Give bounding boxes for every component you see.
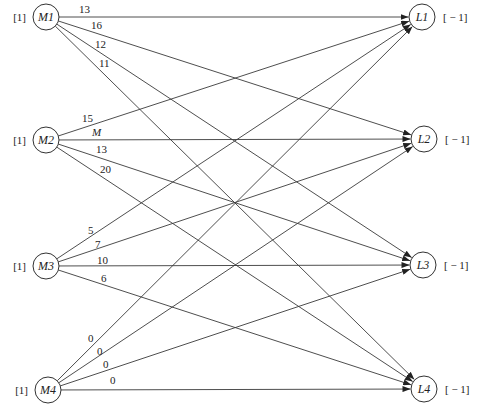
cost-label-m1-l1: 13 — [79, 3, 91, 15]
demand-label: [ − 1] — [445, 133, 470, 145]
edge-m4-l2 — [59, 146, 413, 382]
cost-label-m3-l2: 7 — [95, 238, 101, 250]
cost-label-m4-l4: 0 — [110, 374, 116, 386]
supply-label: [1] — [13, 134, 26, 146]
sink-node-l1: L1[ − 1] — [409, 4, 468, 30]
sink-node-l3: L3[ − 1] — [410, 252, 469, 278]
source-node-m1: M1[1] — [13, 4, 59, 30]
node-label: L3 — [416, 258, 430, 272]
demand-label: [ − 1] — [444, 259, 469, 271]
node-label: M4 — [39, 383, 56, 397]
node-label: M2 — [37, 133, 54, 147]
cost-labels-layer: 1316121115M1320571060000 — [79, 3, 116, 386]
cost-label-m2-l4: 20 — [100, 163, 112, 175]
node-label: L1 — [415, 10, 429, 24]
cost-label-m4-l1: 0 — [88, 332, 94, 344]
cost-label-m3-l4: 6 — [101, 272, 107, 284]
node-label: M1 — [37, 10, 54, 24]
edge-m2-l2 — [59, 139, 411, 140]
source-node-m4: M4[1] — [15, 377, 61, 403]
supply-label: [1] — [13, 11, 26, 23]
node-label: L4 — [417, 382, 431, 396]
demand-label: [ − 1] — [445, 383, 470, 395]
node-label: M3 — [37, 259, 54, 273]
nodes-layer: M1[1]M2[1]M3[1]M4[1]L1[ − 1]L2[ − 1]L3[ … — [13, 4, 469, 403]
cost-label-m2-l1: 15 — [82, 112, 94, 124]
sink-node-l2: L2[ − 1] — [411, 126, 470, 152]
supply-label: [1] — [15, 384, 28, 396]
cost-label-m2-l3: 13 — [96, 143, 108, 155]
demand-label: [ − 1] — [443, 11, 468, 23]
cost-label-m1-l3: 12 — [95, 38, 106, 50]
sink-node-l4: L4[ − 1] — [411, 376, 470, 402]
cost-label-m3-l1: 5 — [88, 224, 94, 236]
cost-label-m4-l3: 0 — [103, 358, 109, 370]
edges-layer — [55, 17, 414, 390]
network-diagram: 1316121115M1320571060000 M1[1]M2[1]M3[1]… — [0, 0, 483, 409]
cost-label-m1-l4: 11 — [99, 57, 110, 69]
node-label: L2 — [417, 132, 431, 146]
edge-m4-l3 — [60, 269, 410, 386]
source-node-m3: M3[1] — [13, 253, 59, 279]
cost-label-m1-l2: 16 — [91, 19, 103, 31]
source-node-m2: M2[1] — [13, 127, 59, 153]
edge-m3-l1 — [57, 24, 411, 258]
cost-label-m4-l2: 0 — [97, 345, 103, 357]
supply-label: [1] — [13, 260, 26, 272]
cost-label-m2-l2: M — [91, 126, 102, 138]
edge-m4-l4 — [61, 389, 411, 390]
network-svg: 1316121115M1320571060000 M1[1]M2[1]M3[1]… — [0, 0, 483, 409]
edge-m3-l2 — [58, 143, 411, 262]
cost-label-m3-l3: 10 — [97, 254, 109, 266]
